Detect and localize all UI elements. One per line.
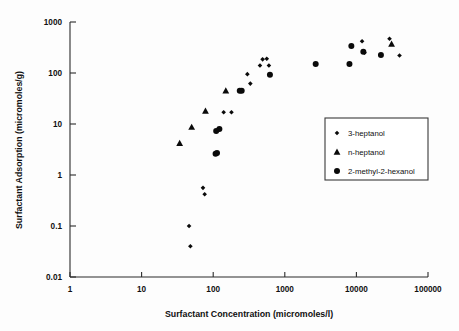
y-axis-title: Surfactant Adsorption (micromoles/g) [14, 71, 24, 229]
x-axis-ticks: 110100100010000100000 [68, 272, 442, 294]
data-point [221, 110, 226, 115]
data-point [378, 52, 384, 58]
y-tick-label-0.01: 0.01 [46, 273, 62, 282]
data-point [202, 108, 209, 114]
x-tick-label-1: 1 [68, 285, 73, 294]
data-point [264, 56, 269, 61]
legend: 3-heptanoln-heptanol2-methyl-2-hexanol [325, 118, 428, 180]
data-point [239, 88, 245, 94]
x-tick-label-100000: 100000 [414, 285, 442, 294]
x-axis-title: Surfactant Concentration (micromoles/l) [165, 309, 333, 319]
x-tick-label-10: 10 [137, 285, 147, 294]
data-point [258, 63, 263, 68]
y-tick-label-0.1: 0.1 [51, 222, 63, 231]
data-point [176, 140, 183, 146]
y-tick-label-1000: 1000 [44, 18, 63, 27]
data-point [188, 244, 193, 249]
data-point [187, 224, 192, 229]
data-point [222, 87, 229, 93]
data-point [387, 36, 392, 41]
data-point [360, 39, 365, 44]
data-point [245, 72, 250, 77]
x-tick-label-10000: 10000 [345, 285, 368, 294]
data-point [348, 43, 354, 49]
data-point [313, 61, 319, 67]
data-point [229, 110, 234, 115]
data-point [360, 49, 366, 55]
data-point [260, 57, 265, 62]
scatter-plot: 110100100010000100000 0.010.11101001000 … [0, 0, 459, 331]
data-point [388, 41, 395, 47]
y-axis-ticks: 0.010.11101001000 [44, 18, 76, 282]
data-point [216, 126, 222, 132]
data-point [397, 53, 402, 58]
data-point [248, 81, 253, 86]
data-point [267, 72, 273, 78]
chart-figure: 110100100010000100000 0.010.11101001000 … [0, 0, 459, 331]
data-point [202, 192, 207, 197]
data-point [201, 186, 206, 191]
legend-label-1: n-heptanol [348, 148, 385, 157]
data-point [214, 150, 220, 156]
data-point [267, 63, 272, 68]
data-point [188, 124, 195, 130]
x-tick-label-100: 100 [206, 285, 220, 294]
y-tick-label-100: 100 [48, 69, 62, 78]
legend-label-2: 2-methyl-2-hexanol [348, 167, 415, 176]
data-point [346, 61, 352, 67]
y-tick-label-1: 1 [57, 171, 62, 180]
legend-label-0: 3-heptanol [348, 129, 385, 138]
legend-marker-circle-icon [334, 168, 340, 174]
y-tick-label-10: 10 [53, 120, 63, 129]
x-tick-label-1000: 1000 [276, 285, 295, 294]
